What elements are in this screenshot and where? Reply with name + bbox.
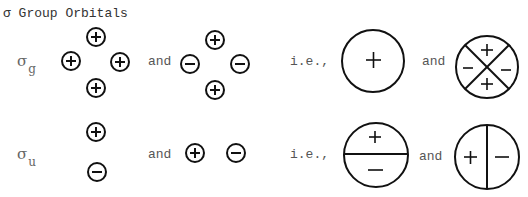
orbital-diagram — [0, 0, 528, 197]
small-orbital-plus-icon — [186, 144, 204, 162]
small-orbital-plus-icon — [206, 31, 224, 49]
large-orbital-four-lobe — [456, 36, 518, 98]
sigma-g-set2 — [181, 31, 249, 99]
small-orbital-plus-icon — [87, 28, 105, 46]
small-orbital-minus-icon — [231, 55, 249, 73]
sigma-g-set1 — [62, 28, 129, 97]
large-orbital-vertical-split — [455, 125, 519, 189]
small-orbital-plus-icon — [87, 79, 105, 97]
large-orbital-single-lobe — [342, 30, 404, 92]
small-orbital-minus-icon — [181, 55, 199, 73]
small-orbital-plus-icon — [62, 52, 80, 70]
small-orbital-minus-icon — [88, 163, 106, 181]
small-orbital-minus-icon — [227, 144, 245, 162]
small-orbital-plus-icon — [87, 123, 105, 141]
small-orbital-plus-icon — [111, 53, 129, 71]
large-orbital-horizontal-split — [344, 123, 408, 187]
sigma-u-set1 — [87, 123, 106, 181]
small-orbital-plus-icon — [206, 81, 224, 99]
sigma-u-set2 — [186, 144, 245, 162]
